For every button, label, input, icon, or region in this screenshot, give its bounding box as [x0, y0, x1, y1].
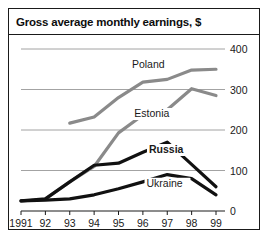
xtick-label-97: 97 — [161, 217, 173, 229]
ytick-label-200: 200 — [230, 124, 248, 136]
xtick-label-96: 96 — [137, 217, 149, 229]
series-label-poland: Poland — [132, 58, 165, 70]
chart-frame: Gross average monthly earnings, $ 010020… — [8, 8, 260, 230]
ytick-label-300: 300 — [230, 84, 248, 96]
page-title: Gross average monthly earnings, $ — [9, 16, 201, 28]
series-label-russia: Russia — [149, 143, 184, 155]
series-label-estonia: Estonia — [134, 107, 169, 119]
series-label-ukraine: Ukraine — [147, 177, 183, 189]
xtick-label-1991: 1991 — [9, 217, 33, 229]
ytick-label-100: 100 — [230, 165, 248, 177]
ytick-label-400: 400 — [230, 43, 248, 55]
chart-title-bar: Gross average monthly earnings, $ — [9, 9, 259, 35]
plot-area: 010020030040019919293949596979899PolandE… — [9, 35, 259, 229]
xtick-label-98: 98 — [186, 217, 198, 229]
line-chart-svg: 010020030040019919293949596979899PolandE… — [9, 35, 259, 230]
xtick-label-95: 95 — [113, 217, 125, 229]
xtick-label-92: 92 — [40, 217, 52, 229]
ytick-label-0: 0 — [230, 205, 236, 217]
xtick-label-93: 93 — [64, 217, 76, 229]
chart-screenshot: Gross average monthly earnings, $ 010020… — [0, 0, 271, 240]
xtick-label-99: 99 — [210, 217, 222, 229]
xtick-label-94: 94 — [88, 217, 100, 229]
